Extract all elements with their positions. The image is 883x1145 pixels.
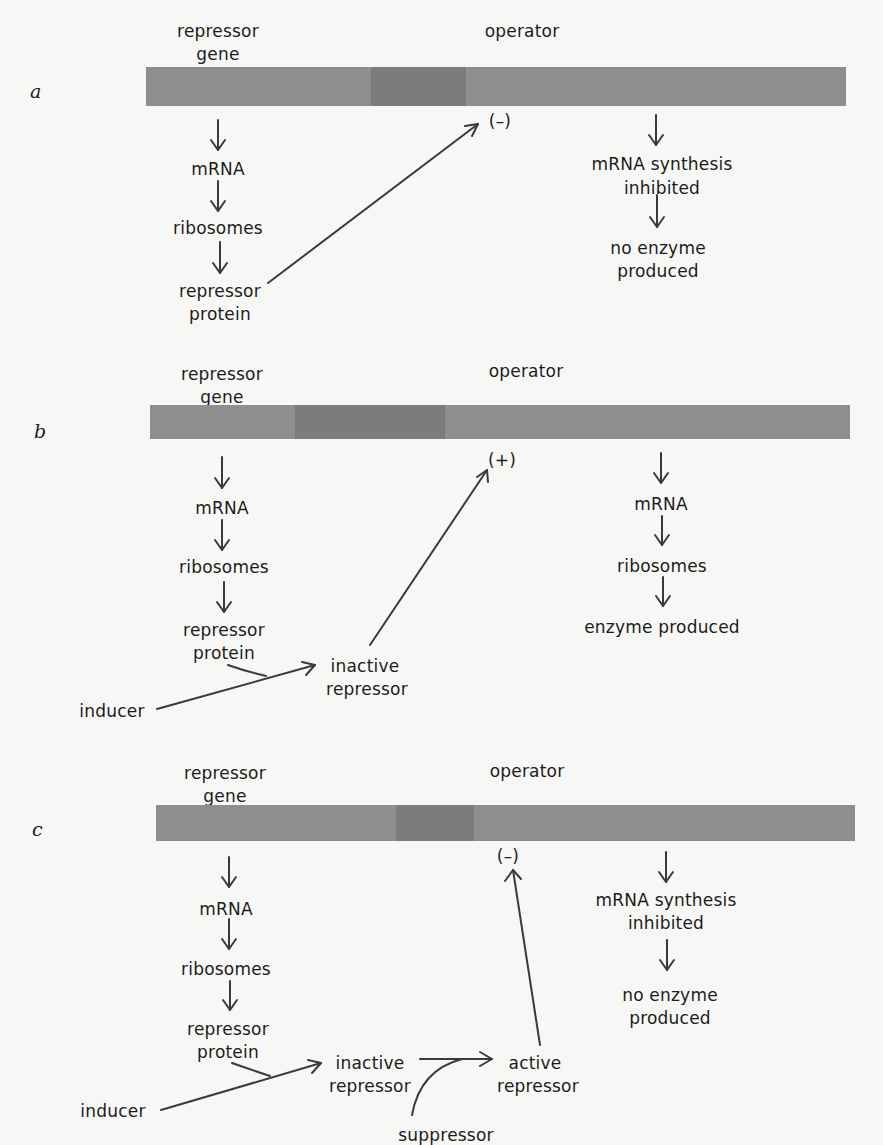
arrow-diagonal-icon [268, 124, 478, 283]
arrow-down-icon [211, 120, 225, 150]
arrow-diagonal-icon [370, 470, 488, 645]
arrows-layer [0, 0, 883, 1145]
arrow-down-icon [656, 577, 670, 606]
arrow-down-icon [215, 520, 229, 550]
merge-arrow-icon [161, 1060, 321, 1110]
arrow-down-icon [655, 516, 669, 545]
arrow-down-icon [213, 242, 227, 273]
arrow-down-icon [659, 852, 673, 882]
arrow-up-icon [505, 870, 540, 1045]
arrow-down-icon [217, 582, 231, 612]
arrow-down-icon [222, 857, 236, 887]
merge-arrow-icon [157, 662, 315, 709]
arrow-down-icon [660, 940, 674, 970]
arrow-down-icon [649, 115, 663, 145]
merge-arrow-icon [412, 1052, 492, 1115]
arrow-down-icon [222, 919, 236, 949]
arrow-down-icon [223, 981, 237, 1010]
arrow-down-icon [650, 195, 664, 227]
arrow-down-icon [654, 453, 668, 483]
arrow-down-icon [215, 457, 229, 488]
arrow-down-icon [211, 181, 225, 211]
